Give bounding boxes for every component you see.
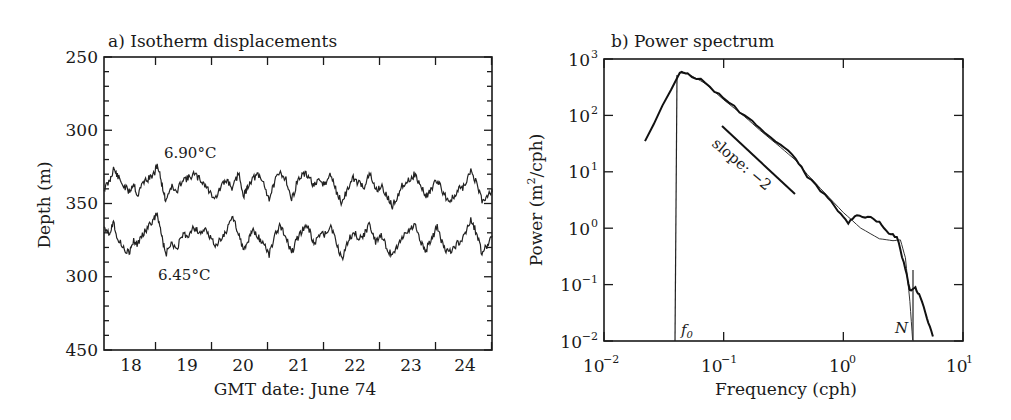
x-tick-label: 19	[176, 355, 198, 375]
x-tick-exp: 0	[849, 353, 856, 366]
panel-a-plot-frame	[104, 57, 492, 350]
label-6-90: 6.90°C	[164, 144, 216, 162]
y-tick-label: 250	[66, 47, 98, 67]
n-label: N	[894, 319, 909, 337]
y-tick-label: 10	[568, 162, 590, 182]
x-tick-label: 24	[454, 355, 476, 375]
x-tick-label: 20	[232, 355, 254, 375]
x-tick-exp: −2	[603, 353, 619, 366]
x-tick-label: 10	[701, 356, 723, 376]
panel-b-x-axis-label: Frequency (cph)	[715, 379, 857, 399]
y-tick-label: 10	[568, 50, 590, 70]
panel-a-x-tick-labels: 18 19 20 21 22 23 24	[120, 355, 476, 375]
model-spectrum-line	[680, 73, 913, 341]
panel-a-x-axis-label: GMT date: June 74	[214, 379, 377, 399]
panel-b-y-tick-labels: 10 3 10 2 10 1 10 0 10 −1 10 −2	[560, 48, 598, 352]
panel-b-x-tick-labels: 10 −2 10 −1 10 0 10 1	[583, 353, 973, 376]
y-tick-label: 10	[560, 275, 582, 295]
y-tick-exp: −1	[582, 273, 598, 286]
x-tick-label: 10	[946, 356, 968, 376]
x-tick-label: 10	[829, 356, 851, 376]
figure: a) Isotherm displacements 250 300 350 30…	[0, 0, 1011, 420]
svg-text:Power (m2/cph): Power (m2/cph)	[525, 134, 546, 267]
y-tick-label: 300	[66, 266, 98, 286]
y-tick-exp: 3	[591, 48, 598, 61]
x-tick-exp: −1	[721, 353, 737, 366]
panel-b-title: b) Power spectrum	[611, 31, 774, 51]
x-tick-label: 22	[344, 355, 366, 375]
x-tick-exp: 1	[966, 353, 973, 366]
y-tick-label: 300	[66, 120, 98, 140]
x-tick-label: 10	[583, 356, 605, 376]
panel-a-title: a) Isotherm displacements	[108, 31, 337, 51]
panel-a-x-ticks	[156, 57, 492, 350]
y-tick-label: 10	[568, 219, 590, 239]
x-tick-label: 18	[120, 355, 142, 375]
f0-line	[675, 75, 677, 341]
x-tick-label: 21	[288, 355, 310, 375]
panel-a-y-tick-labels: 250 300 350 300 450	[66, 47, 98, 360]
y-tick-label: 350	[66, 193, 98, 213]
f0-label: f0	[680, 321, 694, 340]
panel-b-y-axis-label: Power (m2/cph)	[525, 134, 546, 267]
y-tick-label: 10	[560, 332, 582, 352]
panel-a-y-ticks	[104, 57, 492, 350]
y-tick-exp: 1	[591, 160, 598, 173]
y-tick-exp: 2	[591, 104, 598, 117]
isotherm-trace-6-90	[104, 164, 492, 210]
observed-spectrum-line	[645, 72, 933, 337]
panel-b-power-spectrum: b) Power spectrum 10 3 10 2 10 1 10 0 10…	[525, 31, 973, 399]
y-tick-label: 10	[568, 106, 590, 126]
y-tick-label: 450	[66, 340, 98, 360]
isotherm-trace-6-45	[104, 213, 492, 260]
y-tick-exp: −2	[582, 330, 598, 343]
y-tick-exp: 0	[591, 217, 598, 230]
panel-a-isotherm-displacements: a) Isotherm displacements 250 300 350 30…	[34, 31, 492, 399]
x-tick-label: 23	[400, 355, 422, 375]
label-6-45: 6.45°C	[158, 266, 210, 284]
panel-a-y-axis-label: Depth (m)	[34, 161, 54, 248]
